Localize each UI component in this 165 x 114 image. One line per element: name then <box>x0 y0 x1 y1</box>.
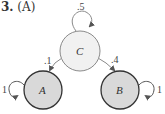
node-a-label: A <box>38 84 46 96</box>
node-b-label: B <box>116 84 123 96</box>
edge-label-b-b: 1 <box>157 84 162 95</box>
edge-c-c-loop <box>72 11 92 31</box>
edge-label-c-c: .5 <box>77 1 85 12</box>
edge-a-a-loop <box>9 81 24 97</box>
edge-c-a <box>50 58 62 70</box>
markov-chain-diagram: .5 .1 .4 C A 1 B 1 <box>0 0 165 114</box>
node-c-label: C <box>76 45 84 57</box>
edge-b-b-loop <box>139 81 154 97</box>
edge-label-c-b: .4 <box>111 54 119 65</box>
edge-label-a-a: 1 <box>2 84 7 95</box>
edge-label-c-a: .1 <box>44 55 52 66</box>
